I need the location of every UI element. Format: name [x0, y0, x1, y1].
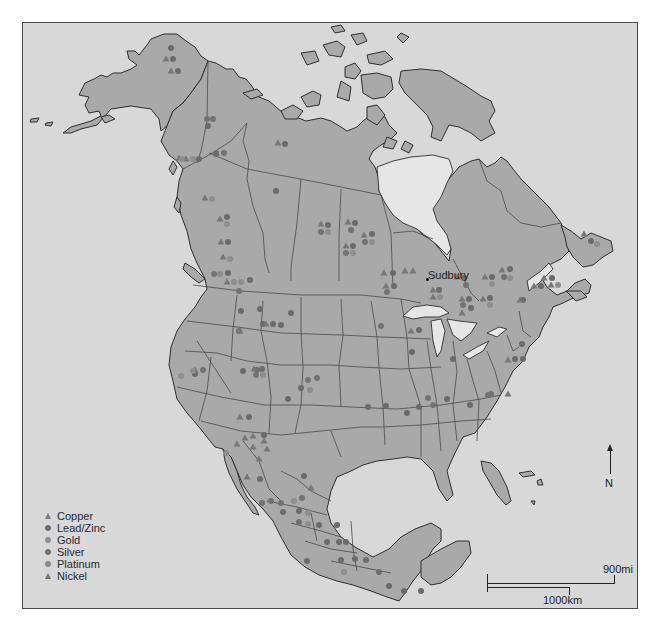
legend-item-platinum: Platinum	[42, 558, 105, 570]
copper-triangle-icon	[505, 391, 512, 397]
silver-circle-icon	[211, 271, 217, 277]
gold-circle-icon	[224, 221, 230, 227]
lead-circle-icon	[436, 287, 442, 293]
lead-circle-icon	[404, 410, 410, 416]
copper-triangle-icon	[381, 270, 388, 276]
lead-circle-icon	[261, 432, 267, 438]
lead-circle-icon	[270, 321, 276, 327]
silver-circle-icon	[299, 495, 305, 501]
copper-triangle-icon	[459, 310, 466, 316]
legend: Copper Lead/Zinc Gold Silver Platinum Ni…	[42, 510, 105, 582]
lead-circle-icon	[273, 188, 279, 194]
lead-circle-icon	[246, 414, 252, 420]
copper-triangle-icon	[237, 414, 244, 420]
silver-circle-icon	[221, 150, 227, 156]
silver-circle-icon	[318, 229, 324, 235]
silver-circle-icon	[378, 323, 384, 329]
gold-circle-icon	[489, 281, 495, 287]
copper-triangle-icon	[224, 279, 231, 285]
silver-circle-icon	[296, 519, 302, 525]
gold-circle-icon	[350, 250, 356, 256]
silver-circle-icon	[278, 500, 284, 506]
lead-circle-icon	[247, 277, 253, 283]
lead-circle-icon	[343, 539, 349, 545]
circle-icon	[42, 549, 54, 555]
gold-circle-icon	[325, 229, 331, 235]
legend-item-copper: Copper	[42, 510, 105, 522]
legend-label: Lead/Zinc	[57, 522, 105, 534]
copper-triangle-icon	[261, 438, 268, 444]
lead-circle-icon	[285, 396, 291, 402]
lead-circle-icon	[336, 539, 342, 545]
lead-circle-icon	[334, 522, 340, 528]
triangle-icon	[42, 573, 54, 579]
silver-circle-icon	[305, 377, 311, 383]
gold-circle-icon	[291, 498, 297, 504]
lead-circle-icon	[257, 306, 263, 312]
legend-label: Copper	[57, 510, 93, 522]
lead-circle-icon	[205, 123, 211, 129]
gold-circle-icon	[223, 450, 229, 456]
silver-circle-icon	[488, 391, 494, 397]
lead-circle-icon	[196, 156, 202, 162]
copper-triangle-icon	[343, 243, 350, 249]
lead-circle-icon	[401, 588, 407, 594]
lead-circle-icon	[365, 404, 371, 410]
gold-circle-icon	[209, 196, 215, 202]
scale-bar: 900mi 1000km	[485, 563, 638, 609]
lead-circle-icon	[225, 270, 231, 276]
gold-circle-icon	[594, 241, 600, 247]
lead-circle-icon	[369, 231, 375, 237]
silver-circle-icon	[501, 274, 507, 280]
copper-triangle-icon	[361, 232, 368, 238]
copper-triangle-icon	[218, 239, 225, 245]
lead-circle-icon	[386, 583, 392, 589]
lead-circle-icon	[225, 239, 231, 245]
north-arrow: N	[601, 444, 621, 494]
lead-circle-icon	[168, 45, 174, 51]
city-label-sudbury: Sudbury	[428, 269, 469, 281]
copper-triangle-icon	[163, 56, 170, 62]
gold-circle-icon	[227, 256, 233, 262]
copper-triangle-icon	[256, 456, 263, 462]
lead-circle-icon	[466, 296, 472, 302]
lead-circle-icon	[324, 539, 330, 545]
copper-triangle-icon	[234, 441, 241, 447]
copper-triangle-icon	[308, 485, 315, 491]
lead-circle-icon	[549, 275, 555, 281]
legend-label: Silver	[57, 546, 85, 558]
gold-circle-icon	[307, 387, 313, 393]
scale-miles-label: 900mi	[603, 563, 633, 575]
copper-triangle-icon	[505, 357, 512, 363]
lead-circle-icon	[298, 385, 304, 391]
lead-circle-icon	[418, 588, 424, 594]
lead-circle-icon	[325, 222, 331, 228]
lead-circle-icon	[450, 356, 456, 362]
copper-triangle-icon	[250, 433, 257, 439]
scale-km-label: 1000km	[543, 594, 582, 606]
circle-icon	[42, 537, 54, 543]
lead-circle-icon	[238, 308, 244, 314]
silver-circle-icon	[343, 250, 349, 256]
map-frame: Sudbury Copper Lead/Zinc Gold Silver Pla…	[22, 22, 638, 609]
copper-triangle-icon	[402, 268, 409, 274]
lead-circle-icon	[390, 270, 396, 276]
lead-circle-icon	[301, 473, 307, 479]
silver-circle-icon	[463, 282, 469, 288]
silver-circle-icon	[348, 227, 354, 233]
scale-tick-miles	[614, 575, 615, 584]
copper-triangle-icon	[548, 282, 555, 288]
triangle-icon	[42, 513, 54, 519]
silver-circle-icon	[268, 498, 274, 504]
lead-circle-icon	[512, 356, 518, 362]
copper-triangle-icon	[244, 474, 251, 480]
copper-triangle-icon	[410, 268, 417, 274]
circle-icon	[42, 525, 54, 531]
gold-circle-icon	[260, 372, 266, 378]
lead-circle-icon	[391, 283, 397, 289]
copper-triangle-icon	[220, 254, 227, 260]
lead-circle-icon	[519, 341, 525, 347]
gold-circle-icon	[305, 510, 311, 516]
legend-label: Nickel	[57, 570, 87, 582]
lead-circle-icon	[520, 356, 526, 362]
